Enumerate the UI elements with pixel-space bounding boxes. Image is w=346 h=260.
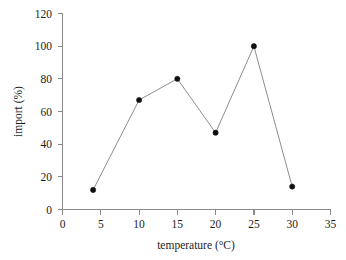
y-tick-label: 40 bbox=[41, 138, 53, 150]
x-tick-label: 5 bbox=[98, 218, 104, 230]
data-point bbox=[137, 97, 142, 102]
data-series-line bbox=[93, 46, 292, 190]
x-tick-label: 35 bbox=[325, 218, 337, 230]
y-tick-label: 120 bbox=[35, 8, 53, 20]
x-tick-label: 30 bbox=[286, 218, 298, 230]
data-point bbox=[290, 184, 295, 189]
y-axis-tick-labels: 0 20 40 60 80 100 120 bbox=[35, 8, 53, 216]
data-markers bbox=[91, 44, 295, 193]
y-tick-label: 0 bbox=[46, 204, 52, 216]
x-tick-label: 25 bbox=[248, 218, 260, 230]
x-tick-label: 10 bbox=[133, 218, 145, 230]
chart-figure: 0 20 40 60 80 100 120 0 5 10 15 20 25 30… bbox=[0, 0, 346, 260]
y-tick-label: 60 bbox=[41, 106, 53, 118]
x-axis-tick-labels: 0 5 10 15 20 25 30 35 bbox=[60, 218, 337, 230]
y-tick-label: 80 bbox=[41, 73, 53, 85]
line-chart: 0 20 40 60 80 100 120 0 5 10 15 20 25 30… bbox=[0, 0, 346, 260]
x-tick-label: 0 bbox=[60, 218, 66, 230]
y-axis-title: import (%) bbox=[12, 86, 25, 137]
data-point bbox=[213, 130, 218, 135]
x-tick-label: 20 bbox=[210, 218, 222, 230]
y-tick-label: 20 bbox=[41, 171, 53, 183]
y-tick-label: 100 bbox=[35, 40, 53, 52]
x-axis-title: temperature (°C) bbox=[157, 239, 235, 252]
x-tick-label: 15 bbox=[172, 218, 184, 230]
data-point bbox=[91, 187, 96, 192]
data-point bbox=[175, 76, 180, 81]
data-point bbox=[251, 44, 256, 49]
